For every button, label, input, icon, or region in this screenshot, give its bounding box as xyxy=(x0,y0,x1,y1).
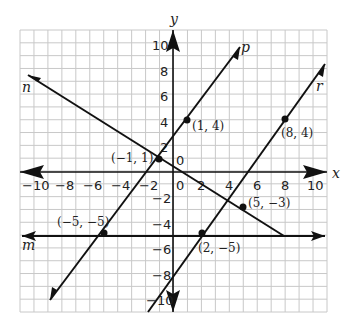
svg-text:(−5, −5): (−5, −5) xyxy=(57,215,109,229)
svg-text:8: 8 xyxy=(160,64,168,79)
svg-text:m: m xyxy=(22,237,35,253)
svg-text:p: p xyxy=(241,39,250,55)
svg-text:6: 6 xyxy=(160,89,168,104)
svg-text:n: n xyxy=(22,79,31,95)
svg-text:(1, 4): (1, 4) xyxy=(192,119,224,133)
y-axis-label: y xyxy=(169,11,179,27)
svg-text:−4: −4 xyxy=(111,178,130,193)
svg-text:0: 0 xyxy=(176,178,184,193)
svg-text:10: 10 xyxy=(307,178,324,193)
line-r: r xyxy=(148,64,325,312)
svg-text:(5, −3): (5, −3) xyxy=(248,196,290,210)
coordinate-plane: y x −10 −8 −6 −4 −2 0 2 4 6 8 10 10 8 6 … xyxy=(0,0,355,325)
svg-text:10: 10 xyxy=(152,38,169,53)
svg-text:r: r xyxy=(316,78,324,94)
svg-text:−10: −10 xyxy=(22,178,49,193)
origin-label: 0 xyxy=(176,153,184,168)
svg-text:−4: −4 xyxy=(152,217,171,232)
svg-text:4: 4 xyxy=(225,178,233,193)
svg-text:−8: −8 xyxy=(55,178,74,193)
svg-text:−6: −6 xyxy=(152,242,171,257)
svg-text:4: 4 xyxy=(160,115,168,130)
svg-text:(2, −5): (2, −5) xyxy=(198,241,240,255)
svg-text:−6: −6 xyxy=(83,178,102,193)
svg-text:(8, 4): (8, 4) xyxy=(281,126,313,140)
svg-text:(−1, 1): (−1, 1) xyxy=(111,151,153,165)
svg-text:−8: −8 xyxy=(152,268,171,283)
svg-text:8: 8 xyxy=(281,178,289,193)
svg-text:6: 6 xyxy=(253,178,261,193)
x-axis-label: x xyxy=(332,165,340,181)
arrow-icon xyxy=(318,64,325,77)
svg-text:−2: −2 xyxy=(152,191,171,206)
